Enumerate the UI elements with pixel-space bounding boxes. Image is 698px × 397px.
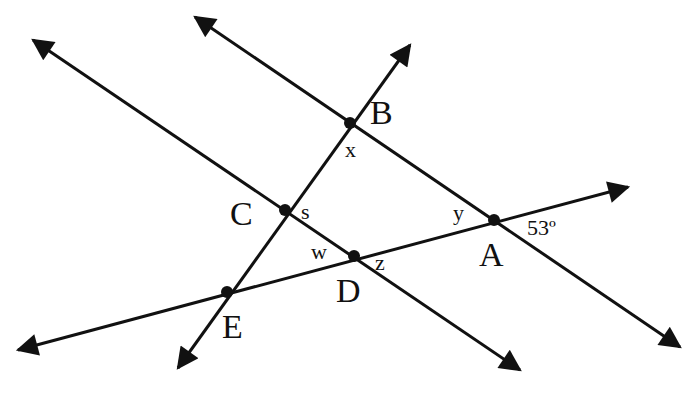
- point-E: [221, 286, 233, 298]
- angle-w: w: [311, 239, 327, 264]
- angle-given-53: 53º: [527, 215, 556, 240]
- line-EA: [18, 187, 628, 350]
- point-D: [348, 250, 360, 262]
- angle-x: x: [345, 137, 356, 162]
- label-C: C: [230, 195, 253, 232]
- point-A: [488, 214, 500, 226]
- label-A: A: [479, 236, 504, 273]
- line-CD: [33, 40, 520, 370]
- geometry-diagram: B C D A E x s w z y 53º: [0, 0, 698, 397]
- diagram-svg: B C D A E x s w z y 53º: [0, 0, 698, 397]
- angle-y: y: [453, 200, 464, 225]
- angle-z: z: [375, 250, 385, 275]
- label-D: D: [336, 272, 361, 309]
- point-B: [344, 117, 356, 129]
- point-C: [279, 204, 291, 216]
- line-BA: [195, 17, 680, 347]
- angle-s: s: [301, 199, 310, 224]
- label-E: E: [222, 308, 243, 345]
- label-B: B: [370, 94, 393, 131]
